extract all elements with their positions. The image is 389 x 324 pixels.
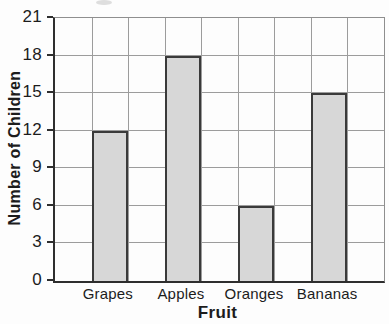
y-tick-mark	[47, 279, 53, 281]
y-tick-label: 12	[2, 121, 42, 139]
x-axis-title: Fruit	[53, 303, 382, 323]
y-tick-label: 18	[2, 46, 42, 64]
y-tick-mark	[47, 16, 53, 18]
x-axis: GrapesApplesOrangesBananas	[53, 285, 382, 305]
y-tick-mark	[47, 54, 53, 56]
x-tick-label: Oranges	[225, 285, 284, 303]
y-tick-label: 21	[2, 8, 42, 26]
x-tick-label: Apples	[157, 285, 204, 303]
y-tick-label: 3	[2, 233, 42, 251]
x-tick-label: Bananas	[297, 285, 358, 303]
bar-grapes	[92, 131, 129, 281]
y-tick-label: 9	[2, 158, 42, 176]
gridline-vertical	[274, 18, 275, 281]
y-tick-label: 15	[2, 83, 42, 101]
y-tick-mark	[47, 241, 53, 243]
bar-bananas	[311, 93, 348, 281]
bar-chart-figure: Number of Children 036912151821 GrapesAp…	[0, 0, 389, 324]
y-tick-mark	[47, 204, 53, 206]
y-tick-label: 0	[2, 271, 42, 289]
bar-apples	[165, 56, 202, 281]
gridline-horizontal	[55, 55, 384, 56]
y-tick-mark	[47, 166, 53, 168]
gridline-vertical	[201, 18, 202, 281]
y-tick-mark	[47, 91, 53, 93]
y-tick-mark	[47, 129, 53, 131]
gridline-vertical	[128, 18, 129, 281]
y-axis: 036912151821	[0, 17, 53, 280]
plot-area	[53, 17, 385, 283]
bar-oranges	[238, 206, 275, 281]
x-tick-label: Grapes	[83, 285, 133, 303]
y-tick-label: 6	[2, 196, 42, 214]
gridline-vertical	[347, 18, 348, 281]
scan-smudge	[96, 0, 112, 5]
